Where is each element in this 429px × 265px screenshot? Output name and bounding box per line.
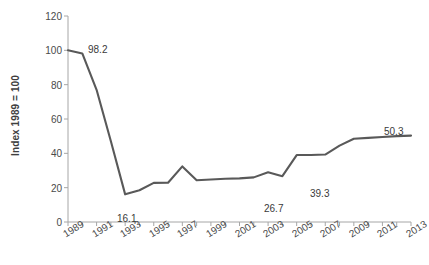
- data-point-label: 39.3: [310, 188, 329, 199]
- data-point-label: 16.1: [117, 213, 136, 224]
- data-point-label: 50.3: [384, 126, 403, 137]
- y-axis-ticks: [64, 16, 68, 222]
- data-point-label: 98.2: [88, 44, 107, 55]
- data-series-line: [68, 50, 411, 194]
- data-point-label: 26.7: [264, 203, 283, 214]
